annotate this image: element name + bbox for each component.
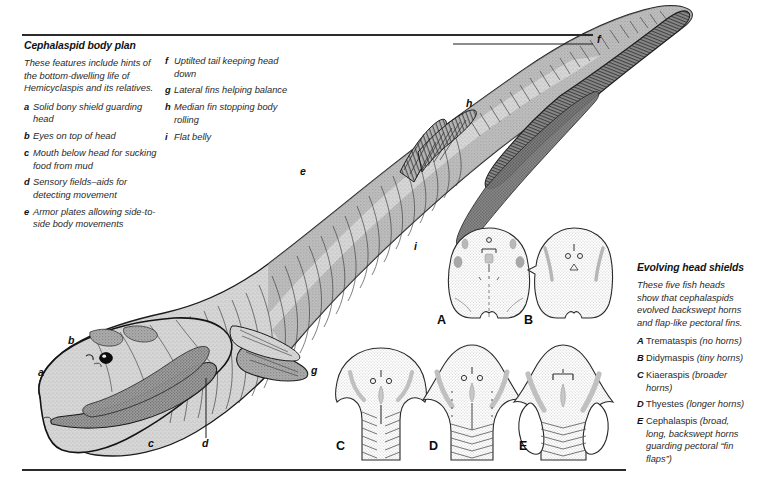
body-plan-heading: Cephalaspid body plan [24, 40, 164, 52]
shield-key-e: E [637, 415, 643, 428]
head-shield-item-d: D Thyestes (longer horns) [637, 398, 749, 411]
body-plan-item-h: h Median fin stopping body rolling [165, 101, 300, 126]
item-text-f: Uptilted tail keeping head down [174, 56, 278, 79]
fish-label-a: a [38, 367, 44, 377]
shield-key-c: C [637, 369, 644, 382]
head-shield-item-a: A Tremataspis (no horns) [637, 335, 749, 348]
fish-label-h: h [466, 98, 472, 108]
item-text-b: Eyes on top of head [33, 131, 116, 141]
shield-name-a: Tremataspis [646, 336, 699, 346]
rule-bottom [22, 469, 626, 471]
item-text-d: Sensory fields–aids for detecting moveme… [33, 177, 127, 200]
shield-key-d: D [637, 398, 644, 411]
item-key-e: e [24, 206, 29, 219]
item-key-f: f [165, 55, 168, 68]
body-plan-item-e: e Armor plates allowing side-to-side bod… [24, 206, 164, 231]
body-plan-panel-continued: f Uptilted tail keeping head down g Late… [165, 55, 300, 147]
item-key-h: h [165, 101, 171, 114]
item-key-i: i [165, 131, 168, 144]
item-text-e: Armor plates allowing side-to-side body … [33, 207, 155, 230]
item-text-i: Flat belly [174, 132, 211, 142]
fish-label-d: d [202, 438, 208, 448]
item-text-g: Lateral fins helping balance [174, 85, 287, 95]
item-text-a: Solid bony shield guarding head [33, 102, 142, 125]
shield-key-a: A [637, 335, 644, 348]
shield-name-c: Kiaeraspis [646, 370, 692, 380]
item-key-g: g [165, 84, 171, 97]
shield-key-b: B [637, 352, 644, 365]
head-shields-intro: These five fish heads show that cephalas… [637, 279, 749, 329]
fish-label-f: f [597, 34, 601, 44]
item-key-b: b [24, 130, 30, 143]
body-plan-item-g: g Lateral fins helping balance [165, 84, 300, 97]
fish-label-b: b [68, 335, 74, 345]
shield-label-a: A [437, 314, 446, 326]
head-shield-item-b: B Didymaspis (tiny horns) [637, 352, 749, 365]
eye-highlight [102, 355, 106, 358]
item-key-c: c [24, 147, 29, 160]
illustration-page: Cephalaspid body plan These features inc… [0, 0, 757, 493]
head-shields-heading: Evolving head shields [637, 262, 749, 274]
fish-label-e: e [300, 166, 306, 176]
shield-name-d: Thyestes [646, 399, 686, 409]
fish-label-g: g [311, 365, 317, 375]
head-shields-panel: Evolving head shields These five fish he… [637, 262, 749, 470]
item-text-c: Mouth below head for sucking food from m… [33, 148, 157, 171]
shield-note-a: (no horns) [699, 336, 741, 346]
shield-label-c: C [336, 440, 345, 452]
body-plan-item-d: d Sensory fields–aids for detecting move… [24, 176, 164, 201]
head-shield-item-e: E Cephalaspis (broad, long, backswept ho… [637, 415, 749, 465]
rule-top [22, 34, 593, 36]
shield-note-b: (tiny horns) [697, 353, 744, 363]
item-text-h: Median fin stopping body rolling [174, 102, 277, 125]
item-key-d: d [24, 176, 30, 189]
body-plan-panel: Cephalaspid body plan These features inc… [24, 40, 164, 235]
fish-label-i: i [414, 241, 417, 251]
shield-diagram-c [336, 348, 427, 460]
shield-diagram-b [528, 228, 613, 318]
shield-name-e: Cephalaspis [646, 416, 700, 426]
shield-diagram-a [448, 228, 529, 318]
shield-diagram-e [514, 345, 613, 460]
shield-label-d: D [429, 440, 438, 452]
shield-name-b: Didymaspis [646, 353, 697, 363]
body-plan-item-a: a Solid bony shield guarding head [24, 101, 164, 126]
body-plan-intro: These features include hints of the bott… [24, 57, 164, 95]
body-plan-item-i: i Flat belly [165, 131, 300, 144]
eye [100, 353, 113, 364]
body-plan-item-c: c Mouth below head for sucking food from… [24, 147, 164, 172]
head-shield-item-c: C Kiaeraspis (broader horns) [637, 369, 749, 394]
fish-label-c: c [148, 438, 154, 448]
shield-label-e: E [519, 440, 527, 452]
body-plan-item-b: b Eyes on top of head [24, 130, 164, 143]
shield-note-d: (longer horns) [686, 399, 744, 409]
item-key-a: a [24, 101, 29, 114]
body-plan-item-f: f Uptilted tail keeping head down [165, 55, 300, 80]
shield-label-b: B [524, 314, 533, 326]
